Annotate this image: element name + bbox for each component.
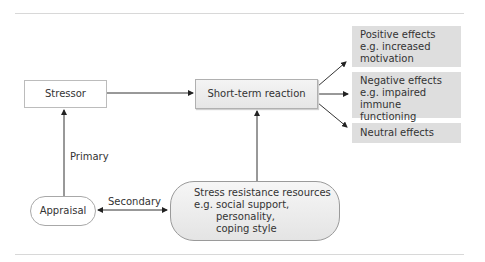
negative-effects-example-cont: functioning [360,111,453,123]
neutral-effects-node: Neutral effects [352,123,461,143]
stress-resistance-resources-node: Stress resistance resources e.g. social … [170,181,340,241]
resources-example-3: coping style [194,223,339,235]
positive-effects-title: Positive effects [360,29,453,41]
resources-example-2: personality, [194,211,339,223]
neutral-effects-label: Neutral effects [360,127,434,139]
positive-effects-example: e.g. increased [360,41,453,53]
negative-effects-node: Negative effects e.g. impaired immune fu… [352,72,461,118]
negative-effects-example: e.g. impaired immune [360,87,453,111]
stressor-label: Stressor [45,88,86,100]
resources-title: Stress resistance resources [194,187,339,199]
resources-example-1: e.g. social support, [194,199,339,211]
stressor-node: Stressor [24,80,107,108]
appraisal-label: Appraisal [40,205,87,217]
primary-edge-label: Primary [70,151,109,163]
positive-effects-example-cont: motivation [360,53,453,65]
positive-effects-node: Positive effects e.g. increased motivati… [352,26,461,67]
appraisal-node: Appraisal [30,196,96,226]
short-term-reaction-node: Short-term reaction [195,79,318,109]
negative-effects-title: Negative effects [360,75,453,87]
short-term-reaction-label: Short-term reaction [207,88,305,100]
secondary-edge-label: Secondary [108,196,161,208]
